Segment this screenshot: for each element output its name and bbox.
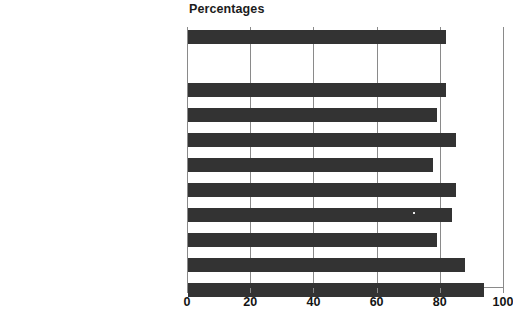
bar-yorkshire-and-the-humber (188, 133, 456, 147)
x-tick-label-100: 100 (493, 295, 513, 309)
x-tick-label-20: 20 (243, 295, 257, 309)
x-tick-mark-80 (440, 288, 441, 293)
x-tick-mark-0 (187, 288, 188, 293)
bar-south-east (188, 258, 465, 272)
x-tick-mark-40 (313, 288, 314, 293)
x-tick-mark-60 (377, 288, 378, 293)
bar-east-of-england (188, 208, 452, 222)
x-tick-label-60: 60 (370, 295, 384, 309)
bar-england (188, 30, 446, 44)
plot-area (187, 27, 503, 288)
bar-west-midlands (188, 183, 456, 197)
bar-north-west (188, 108, 437, 122)
bar-east-midlands (188, 158, 433, 172)
x-tick-mark-100 (503, 288, 504, 293)
gridline-100 (503, 27, 504, 288)
bar-chart: Percentages EnglandNorth EastNorth WestY… (0, 0, 513, 315)
bar-north-east (188, 83, 446, 97)
x-tick-label-40: 40 (306, 295, 320, 309)
gridline-80 (440, 27, 441, 288)
x-tick-mark-20 (250, 288, 251, 293)
chart-title: Percentages (189, 2, 264, 16)
x-tick-label-80: 80 (433, 295, 447, 309)
x-tick-label-0: 0 (184, 295, 191, 309)
bar-london (188, 233, 437, 247)
